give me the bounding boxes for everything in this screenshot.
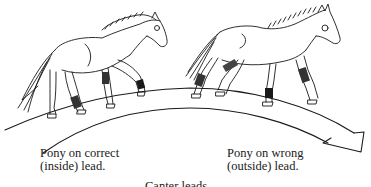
right-pony-caption: Pony on wrong (outside) lead. xyxy=(227,147,303,173)
right-pony-drawing xyxy=(186,4,340,106)
canter-leads-figure: Pony on correct (inside) lead. Pony on w… xyxy=(0,0,371,187)
curved-path-arrow xyxy=(5,88,364,153)
right-caption-line2: (outside) lead. xyxy=(227,160,303,173)
left-caption-line2: (inside) lead. xyxy=(40,160,119,173)
figure-title: Canter leads xyxy=(145,180,207,187)
left-pony-drawing xyxy=(18,12,167,118)
arrowhead xyxy=(323,132,364,152)
arrow-outer-edge xyxy=(5,88,354,133)
left-pony-caption: Pony on correct (inside) lead. xyxy=(40,147,119,173)
